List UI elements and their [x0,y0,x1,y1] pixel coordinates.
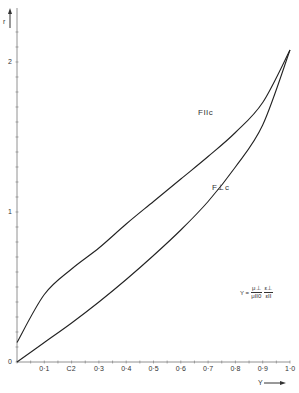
x-tick-label: 1·0 [285,365,295,372]
x-tick-label: 0·3 [94,365,104,372]
x-axis-label: Y [258,379,263,386]
formula-fraction-mu: μ⊥ μII0 [251,285,261,300]
x-tick-label: 0·4 [121,365,131,372]
axes [8,8,290,385]
x-tick-label: 0·5 [149,365,159,372]
formula-epsilon-denominator: εII [265,293,271,300]
y-tick-label: 1 [8,208,12,215]
formula-mu-denominator: μII0 [251,293,261,300]
y-axis-label: r [3,18,5,25]
chart-canvas [0,0,299,393]
curve-perpendicular-c [17,50,290,362]
curve-label-parallel: FIIc [198,108,213,117]
x-tick-label: 0·7 [203,365,213,372]
x-arrow-head-icon [280,381,286,385]
x-tick-label: 0·1 [39,365,49,372]
y-tick-label: 0 [8,358,12,365]
formula-lhs: Y = [240,290,249,296]
formula-mu-numerator: μ⊥ [251,285,261,293]
curve-label-perpendicular: F⊥c [212,183,229,192]
formula-annotation: Y = μ⊥ μII0 ε⊥ εII [240,285,273,300]
x-tick-label: 0·9 [258,365,268,372]
formula-fraction-epsilon: ε⊥ εII [264,285,274,300]
y-arrow-head-icon [8,8,12,14]
x-tick-label: C2 [67,365,76,372]
x-tick-label: 0·6 [176,365,186,372]
curves [17,50,290,362]
y-tick-label: 2 [8,58,12,65]
formula-epsilon-numerator: ε⊥ [264,285,274,293]
x-tick-label: 0·8 [230,365,240,372]
